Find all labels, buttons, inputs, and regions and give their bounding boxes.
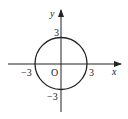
x-axis-label: x <box>111 66 117 77</box>
origin-label: O <box>51 67 58 78</box>
y-axis-label: y <box>49 8 55 19</box>
tick-label-x-pos: 3 <box>89 67 94 78</box>
tick-label-y-neg: −3 <box>47 91 58 102</box>
tick-label-y-pos: 3 <box>54 27 59 38</box>
tick-label-x-neg: −3 <box>21 67 32 78</box>
coordinate-diagram: y x O 3 −3 −3 3 <box>0 0 128 119</box>
